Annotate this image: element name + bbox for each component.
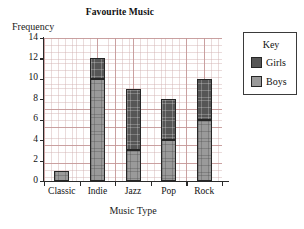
bar-segment-boys	[126, 150, 141, 181]
y-tick-label: 14	[12, 32, 38, 42]
y-tick-mark	[40, 120, 44, 121]
bar-chart: Favourite Music Frequency 02468101214 Cl…	[0, 0, 304, 229]
y-tick-label: 8	[12, 93, 38, 103]
x-tick-label-indie: Indie	[80, 186, 116, 196]
x-tick-label-classic: Classic	[44, 186, 80, 196]
bar-segment-girls	[126, 89, 141, 150]
bar-pop	[161, 38, 176, 181]
y-tick-mark	[40, 38, 44, 39]
y-tick-label: 0	[12, 175, 38, 185]
bar-jazz	[126, 38, 141, 181]
y-tick-mark	[40, 140, 44, 141]
bar-indie	[90, 38, 105, 181]
bar-segment-girls	[90, 58, 105, 78]
bar-segment-boys	[197, 120, 212, 181]
y-tick-mark	[40, 58, 44, 59]
legend: Key Girls Boys	[243, 32, 297, 95]
legend-swatch-boys	[251, 76, 262, 87]
bar-classic	[54, 38, 69, 181]
bar-segment-girls	[161, 99, 176, 140]
bar-segment-girls	[197, 79, 212, 120]
y-tick-mark	[40, 161, 44, 162]
chart-title: Favourite Music	[60, 7, 180, 17]
x-tick-mark	[80, 182, 81, 186]
legend-item-boys: Boys	[251, 76, 287, 87]
y-tick-label: 2	[12, 154, 38, 164]
x-tick-mark	[44, 182, 45, 186]
legend-label-boys: Boys	[266, 77, 287, 87]
legend-item-girls: Girls	[251, 57, 286, 68]
y-axis-ticks: 02468101214	[0, 0, 44, 229]
bar-rock	[197, 38, 212, 181]
y-tick-label: 10	[12, 72, 38, 82]
x-tick-label-jazz: Jazz	[115, 186, 151, 196]
x-tick-mark	[222, 182, 223, 186]
y-tick-mark	[40, 79, 44, 80]
x-tick-mark	[151, 182, 152, 186]
x-tick-label-rock: Rock	[186, 186, 222, 196]
x-tick-mark	[115, 182, 116, 186]
legend-title: Key	[244, 39, 298, 50]
bar-segment-boys	[90, 79, 105, 181]
y-tick-label: 6	[12, 113, 38, 123]
x-axis-title: Music Type	[44, 205, 222, 216]
y-tick-mark	[40, 99, 44, 100]
legend-label-girls: Girls	[266, 58, 286, 68]
y-tick-label: 12	[12, 52, 38, 62]
y-tick-mark	[40, 181, 44, 182]
x-tick-mark	[186, 182, 187, 186]
x-tick-label-pop: Pop	[151, 186, 187, 196]
legend-swatch-girls	[251, 57, 262, 68]
bar-segment-boys	[54, 171, 69, 181]
y-tick-label: 4	[12, 134, 38, 144]
bar-segment-boys	[161, 140, 176, 181]
